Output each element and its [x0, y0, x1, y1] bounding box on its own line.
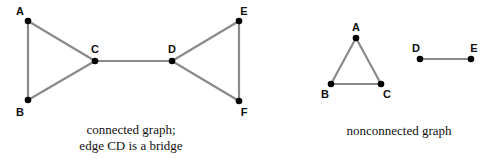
connected-graph: A B C D E F connected graph; edge CD is … — [16, 5, 248, 153]
vertex-label-A: A — [352, 21, 360, 33]
edge-AB — [331, 38, 356, 84]
edge-BC — [28, 61, 95, 100]
vertex-label-C: C — [383, 88, 391, 100]
vertex-label-F: F — [241, 106, 248, 118]
nonconnected-caption: nonconnected graph — [346, 123, 452, 138]
vertex-E — [236, 18, 243, 25]
vertex-D — [417, 56, 424, 63]
vertex-B — [328, 81, 335, 88]
edge-DF — [172, 61, 239, 101]
edge-AC — [356, 38, 381, 84]
vertex-label-D: D — [168, 43, 176, 55]
vertex-label-B: B — [321, 88, 329, 100]
edge-DE — [172, 21, 239, 61]
vertex-A — [353, 35, 360, 42]
vertex-label-A: A — [16, 5, 24, 17]
vertex-label-D: D — [412, 42, 420, 54]
vertex-label-B: B — [16, 106, 24, 118]
vertex-B — [25, 97, 32, 104]
vertex-label-C: C — [91, 43, 99, 55]
vertex-D — [169, 58, 176, 65]
vertex-label-E: E — [470, 42, 477, 54]
vertex-F — [236, 98, 243, 105]
vertex-E — [468, 56, 475, 63]
graph-diagram: A B C D E F connected graph; edge CD is … — [0, 0, 486, 159]
vertex-A — [25, 18, 32, 25]
vertex-C — [92, 58, 99, 65]
nonconnected-graph: A B C D E nonconnected graph — [321, 21, 478, 138]
edge-AC — [28, 21, 95, 61]
connected-caption-line-1: connected graph; — [86, 122, 175, 137]
connected-caption-line-2: edge CD is a bridge — [79, 138, 182, 153]
vertex-C — [378, 81, 385, 88]
vertex-label-E: E — [240, 5, 247, 17]
